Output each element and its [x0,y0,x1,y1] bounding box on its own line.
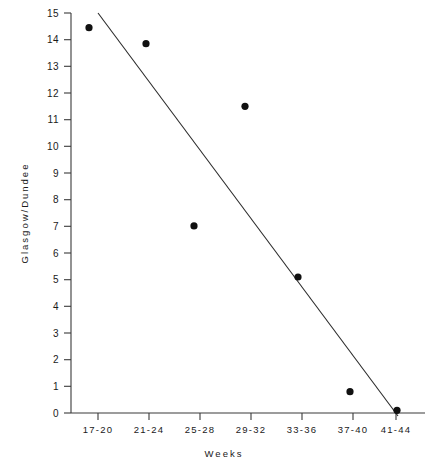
data-point [393,407,400,414]
data-point [294,273,301,280]
y-tick-label: 15 [47,8,59,19]
y-tick-label: 2 [53,354,59,365]
y-tick-label: 7 [53,221,59,232]
x-axis-title: Weeks [205,448,244,459]
y-tick-label: 9 [53,168,59,179]
x-tick-label: 37-40 [338,424,368,435]
y-tick-label: 6 [53,248,59,259]
y-axis-title: Glasgow/Dundee [19,163,30,264]
data-point [190,222,197,229]
x-axis-ticks: 17-20 21-24 25-28 29-32 33-36 37-40 41-4… [83,413,411,435]
y-tick-label: 12 [47,88,59,99]
trend-line [98,13,398,416]
y-tick-label: 4 [53,301,59,312]
y-tick-label: 0 [53,408,59,419]
y-tick-label: 8 [53,194,59,205]
x-tick-label: 29-32 [236,424,266,435]
x-tick-label: 33-36 [287,424,317,435]
y-tick-label: 1 [53,381,59,392]
y-axis-ticks: 0 1 2 3 4 5 6 7 8 9 10 11 12 13 [47,8,71,419]
data-point [142,40,149,47]
y-tick-label: 3 [53,328,59,339]
y-tick-label: 14 [47,34,59,45]
x-tick-label: 21-24 [134,424,164,435]
scatter-plot: 0 1 2 3 4 5 6 7 8 9 10 11 12 13 [0,0,436,468]
y-tick-label: 11 [48,114,59,125]
y-tick-label: 10 [47,141,59,152]
y-tick-label: 5 [53,274,59,285]
data-point [241,103,248,110]
data-point [346,388,353,395]
x-tick-label: 25-28 [185,424,215,435]
x-tick-label: 17-20 [83,424,113,435]
x-tick-label: 41-44 [381,424,411,435]
data-point [85,24,92,31]
chart-figure: 0 1 2 3 4 5 6 7 8 9 10 11 12 13 [0,0,436,468]
axis-lines [71,13,425,413]
y-tick-label: 13 [47,61,59,72]
